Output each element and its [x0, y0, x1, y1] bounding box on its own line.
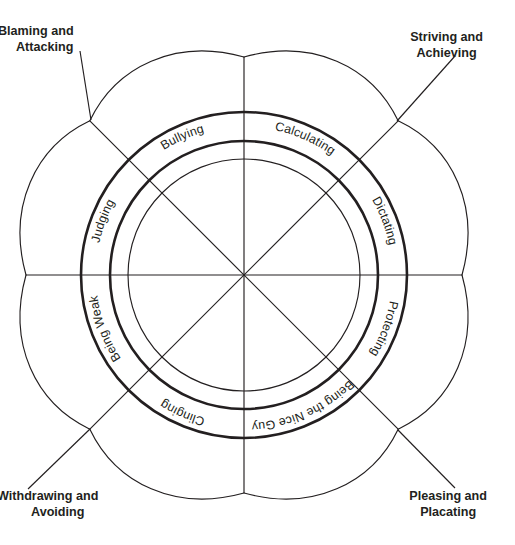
petal-north-west-upper: [90, 51, 244, 121]
leader-withdrawing-avoiding: [28, 429, 90, 489]
ring-label-being-weak: Being Weak: [86, 294, 123, 364]
corner-label-line1: Striving and: [410, 30, 483, 44]
ring-label-judging: Judging: [89, 197, 118, 244]
leader-pleasing-placating: [398, 430, 455, 488]
leader-striving-achieving: [397, 56, 455, 121]
axis-lines-group: [26, 57, 462, 493]
petal-west-lower: [20, 275, 90, 429]
petal-east-upper: [398, 121, 468, 275]
corner-label-line1: Blaming and: [0, 24, 74, 38]
petal-east-lower: [398, 275, 468, 429]
corner-label-line1: Withdrawing and: [0, 489, 98, 503]
corner-label-withdrawing-avoiding: Withdrawing and Avoiding: [0, 489, 98, 520]
wheel-svg: Bullying Calculating Dictating Protectin…: [0, 0, 515, 545]
petal-west-upper: [20, 121, 90, 275]
corner-label-blaming-attacking: Blaming and Attacking: [0, 24, 74, 55]
petal-north-east-upper: [244, 51, 398, 121]
corner-label-line2: Avoiding: [0, 505, 98, 521]
corner-label-pleasing-placating: Pleasing and Placating: [409, 489, 487, 520]
petal-south-west-lower: [90, 429, 244, 499]
corner-label-line1: Pleasing and: [409, 489, 487, 503]
corner-label-line2: Placating: [409, 505, 487, 521]
corner-label-line2: Achieving: [410, 46, 483, 62]
corner-label-striving-achieving: Striving and Achieving: [410, 30, 483, 61]
behaviour-wheel-diagram: Bullying Calculating Dictating Protectin…: [0, 0, 515, 545]
ring-label-protecting: Protecting: [367, 300, 401, 360]
petal-south-east-lower: [244, 429, 398, 499]
leader-blaming-attacking: [80, 51, 91, 120]
corner-label-line2: Attacking: [0, 40, 74, 56]
